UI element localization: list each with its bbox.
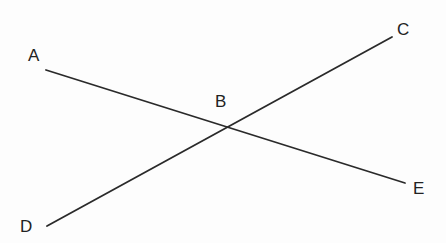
point-label-a: A [28, 46, 40, 65]
diagram-canvas: A B C D E [0, 0, 446, 243]
point-label-c: C [397, 20, 409, 39]
point-label-d: D [20, 217, 32, 236]
point-label-b: B [215, 92, 226, 111]
line-ae [46, 70, 405, 183]
point-label-e: E [413, 179, 424, 198]
line-dc [47, 37, 392, 226]
